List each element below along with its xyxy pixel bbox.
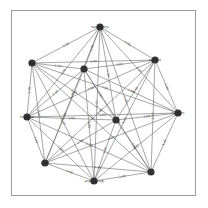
graph-node-n9[interactable]	[112, 116, 119, 123]
node-label: gene	[41, 161, 49, 165]
edge-weight-label: 1.00	[62, 41, 70, 48]
graph-node-n3[interactable]	[147, 168, 154, 175]
edge-weight-label: 1.00	[52, 89, 60, 96]
node-label: engineering	[84, 179, 103, 183]
edge-weight-label: 1.00	[99, 113, 106, 117]
edge-weight-label: 1.00	[87, 85, 95, 91]
edge-weight-label: 1.00	[161, 138, 167, 146]
edge-weight-label: 1.00	[116, 62, 123, 67]
node-label: chemical	[20, 115, 34, 119]
edge-weight-label: 1.00	[102, 147, 108, 155]
edge-weight-label: 1.00	[95, 165, 102, 170]
edge-weight-label: 1.00	[163, 83, 169, 91]
edge-weight-label: 1.00	[101, 85, 109, 91]
graph-node-n8[interactable]	[80, 65, 87, 72]
edge-weight-label: 1.00	[77, 138, 85, 145]
node-label: support	[149, 58, 162, 62]
nodes-layer: respiratorysupportfunctionengineeringgen…	[20, 23, 185, 184]
edge-weight-label: 1.00	[87, 121, 92, 128]
edge-weight-label: 1.00	[89, 44, 95, 52]
edge-weight-label: 1.00	[68, 116, 75, 120]
edge-weight-label: 1.00	[33, 136, 39, 144]
edge-weight-label: 1.00	[54, 63, 61, 68]
edge-weight-label: 1.00	[66, 169, 74, 175]
edge-weight-label: 1.00	[108, 135, 116, 141]
edge-weight-label: 1.00	[36, 109, 41, 116]
network-graph: 1.001.001.001.001.001.001.001.001.001.00…	[0, 0, 208, 208]
node-label: function	[171, 111, 184, 115]
edge-weight-label: 1.00	[121, 116, 128, 124]
edge-weight-label: 1.00	[143, 114, 150, 119]
edge-weight-label: 1.00	[151, 112, 155, 119]
edge-weight-label: 1.00	[90, 59, 97, 63]
node-label: respiratory	[91, 25, 109, 29]
edge-weight-label: 1.00	[124, 40, 132, 47]
edges-layer	[27, 27, 178, 181]
edge-weight-label: 1.00	[123, 96, 129, 104]
edge-weight-label: 1.00	[95, 100, 99, 107]
node-label: cell	[29, 61, 35, 65]
edge-weight-label: 1.00	[119, 174, 126, 179]
edge-weight-label: 1.00	[106, 70, 111, 77]
edge-weight-label: 1.00	[27, 86, 32, 93]
